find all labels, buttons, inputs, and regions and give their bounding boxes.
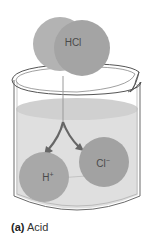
molecule-label: HCl (58, 37, 88, 48)
figure-caption: (a) Acid (11, 221, 48, 233)
cl-ion-label: Cl− (91, 158, 115, 169)
h-ion-label: H+ (36, 172, 60, 183)
acid-dissociation-diagram: HCl H+ Cl− (a) Acid (0, 0, 153, 242)
caption-text: Acid (27, 221, 48, 233)
liquid-surface (16, 98, 138, 120)
caption-tag: (a) (11, 221, 24, 233)
molecule-cl-atom (54, 20, 110, 76)
